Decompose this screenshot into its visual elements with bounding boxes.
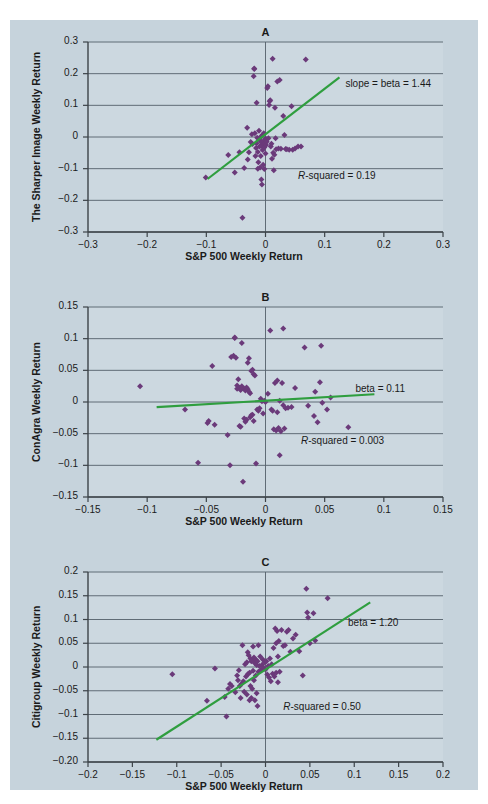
beta-annotation: beta = 1.20 <box>348 617 398 628</box>
y-tick-label: 0.2 <box>32 565 78 576</box>
y-tick-label: −0.20 <box>32 755 78 766</box>
y-axis-label: Citigroup Weekly Return <box>30 606 42 728</box>
x-tick-label: 0.2 <box>420 769 466 780</box>
y-tick-label: 0.15 <box>32 589 78 600</box>
x-tick-label: 0 <box>243 769 289 780</box>
y-tick-label: −0.15 <box>32 731 78 742</box>
x-tick-label: 0.05 <box>287 769 333 780</box>
figure-panel-container: A−0.3−0.2−0.100.10.20.3−0.3−0.2−0.100.10… <box>0 0 488 804</box>
x-tick-label: −0.15 <box>109 769 155 780</box>
x-tick-label: 0.15 <box>376 769 422 780</box>
x-tick-label: 0.1 <box>331 769 377 780</box>
x-tick-label: −0.2 <box>65 769 111 780</box>
x-tick-label: −0.05 <box>198 769 244 780</box>
x-axis-label: S&P 500 Weekly Return <box>0 780 488 792</box>
rsquared-annotation: R-squared = 0.50 <box>283 701 361 712</box>
x-tick-label: −0.1 <box>154 769 200 780</box>
